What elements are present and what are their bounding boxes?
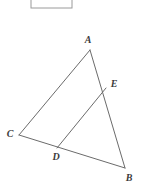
vertex-label-c: C xyxy=(7,129,14,139)
segment-AC xyxy=(19,50,90,135)
diagram-canvas: A E C D B xyxy=(0,0,141,189)
segment-CB xyxy=(19,135,125,168)
vertex-label-d: D xyxy=(52,152,59,162)
cropped-rectangle xyxy=(31,0,72,8)
segment-AB xyxy=(90,50,125,168)
segment-DE xyxy=(57,88,106,148)
geometry-figure xyxy=(0,0,141,189)
vertex-label-e: E xyxy=(111,79,118,89)
vertex-label-b: B xyxy=(126,173,133,183)
vertex-label-a: A xyxy=(85,35,92,45)
